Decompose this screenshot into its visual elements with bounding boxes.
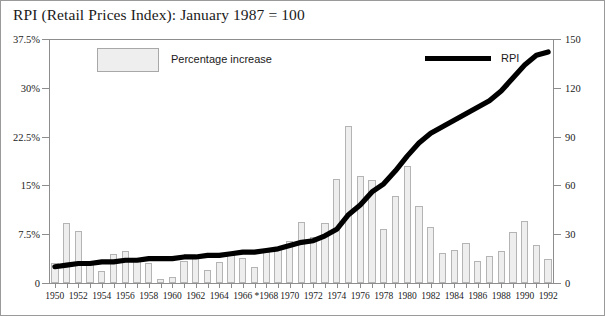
plot-area: 07.5%15%22.5%30%37.5% 0306090120150 1950… (49, 39, 554, 284)
y-tick-right (553, 88, 561, 89)
x-tick (372, 283, 373, 288)
x-tick (525, 283, 526, 288)
x-label: 1986 (468, 291, 487, 301)
y-label-right: 60 (565, 180, 576, 191)
x-label: 1992 (539, 291, 558, 301)
x-tick (384, 283, 385, 288)
y-label-right: 0 (565, 278, 570, 289)
x-tick (125, 283, 126, 288)
x-tick (395, 283, 396, 288)
y-tick-left (42, 137, 49, 138)
x-tick (536, 283, 537, 288)
x-label: 1954 (92, 291, 111, 301)
x-tick (90, 283, 91, 288)
x-tick (407, 283, 408, 288)
x-tick (78, 283, 79, 288)
x-tick (255, 283, 256, 288)
x-label: 1984 (445, 291, 464, 301)
x-tick (337, 283, 338, 288)
x-label: 1990 (515, 291, 534, 301)
x-tick (348, 283, 349, 288)
y-tick-right (553, 39, 561, 40)
x-tick (442, 283, 443, 288)
x-tick (102, 283, 103, 288)
x-tick (266, 283, 267, 288)
chart-title: RPI (Retail Prices Index): January 1987 … (13, 6, 305, 24)
y-label-left: 7.5% (18, 229, 40, 240)
y-tick-left (42, 39, 49, 40)
y-label-left: 22.5% (13, 131, 40, 142)
x-tick (208, 283, 209, 288)
chart-frame: RPI (Retail Prices Index): January 1987 … (0, 0, 605, 316)
x-label: 1978 (374, 291, 393, 301)
x-tick (243, 283, 244, 288)
y-tick-left (42, 283, 49, 284)
x-label: 1952 (69, 291, 88, 301)
x-label: 1966 (233, 291, 252, 301)
x-label: *1968 (254, 291, 278, 301)
x-tick (290, 283, 291, 288)
rpi-line (49, 39, 554, 284)
y-tick-right (553, 185, 561, 186)
y-tick-left (42, 185, 49, 186)
x-tick (325, 283, 326, 288)
x-tick (161, 283, 162, 288)
x-tick (137, 283, 138, 288)
x-tick (231, 283, 232, 288)
x-tick (172, 283, 173, 288)
x-label: 1958 (139, 291, 158, 301)
x-tick (278, 283, 279, 288)
x-tick (431, 283, 432, 288)
y-label-right: 120 (565, 82, 581, 93)
x-tick (67, 283, 68, 288)
x-tick (55, 283, 56, 288)
x-tick (219, 283, 220, 288)
x-tick (196, 283, 197, 288)
x-label: 1982 (421, 291, 440, 301)
y-label-left: 0 (35, 278, 40, 289)
x-tick (360, 283, 361, 288)
x-label: 1980 (398, 291, 417, 301)
x-tick (548, 283, 549, 288)
x-label: 1960 (163, 291, 182, 301)
x-tick (489, 283, 490, 288)
y-tick-left (42, 88, 49, 89)
y-label-right: 150 (565, 34, 581, 45)
y-label-left: 30% (21, 82, 40, 93)
y-tick-right (553, 137, 561, 138)
x-tick (114, 283, 115, 288)
y-tick-right (553, 283, 561, 284)
x-tick (501, 283, 502, 288)
y-tick-right (553, 234, 561, 235)
x-label: 1964 (210, 291, 229, 301)
x-tick (454, 283, 455, 288)
x-tick (184, 283, 185, 288)
y-label-right: 30 (565, 229, 576, 240)
x-label: 1970 (280, 291, 299, 301)
x-label: 1976 (351, 291, 370, 301)
y-label-right: 90 (565, 131, 576, 142)
x-tick (513, 283, 514, 288)
y-label-left: 15% (21, 180, 40, 191)
x-label: 1988 (492, 291, 511, 301)
x-tick (313, 283, 314, 288)
x-label: 1974 (327, 291, 346, 301)
x-tick (302, 283, 303, 288)
x-tick (149, 283, 150, 288)
y-tick-left (42, 234, 49, 235)
x-label: 1950 (45, 291, 64, 301)
x-label: 1956 (116, 291, 135, 301)
y-label-left: 37.5% (13, 34, 40, 45)
x-tick (478, 283, 479, 288)
x-tick (466, 283, 467, 288)
x-label: 1972 (304, 291, 323, 301)
x-tick (419, 283, 420, 288)
x-label: 1962 (186, 291, 205, 301)
